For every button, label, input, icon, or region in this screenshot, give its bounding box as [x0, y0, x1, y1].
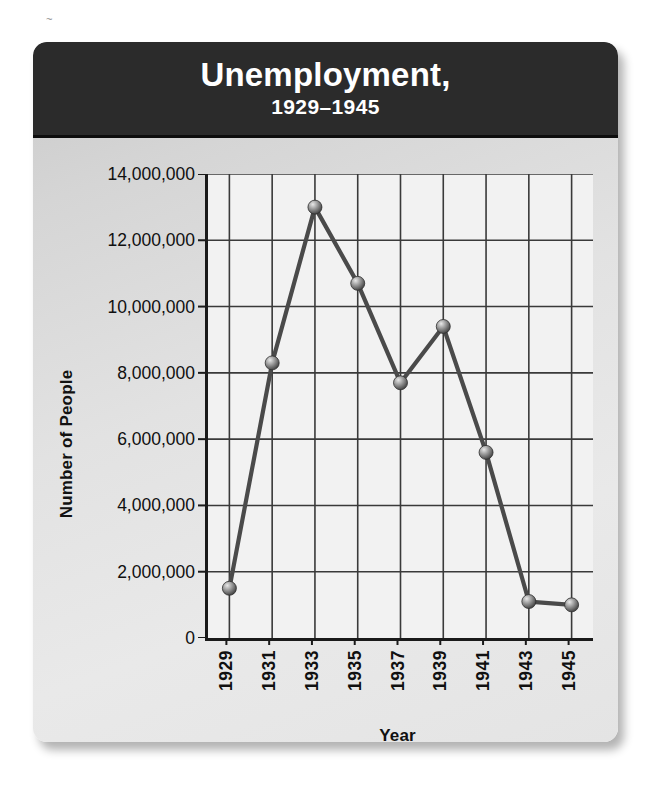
x-axis-tick-label: 1941	[473, 650, 494, 691]
x-axis-tick-labels: 192919311933193519371939194119431945	[205, 646, 590, 724]
data-point-marker	[522, 595, 536, 609]
data-point-marker	[565, 598, 579, 612]
plot-inner	[208, 174, 593, 638]
x-axis-ticks	[205, 638, 590, 646]
chart-region: Number of People 02,000,0004,000,0006,00…	[33, 138, 618, 742]
y-axis-tick-label: 8,000,000	[117, 362, 195, 383]
y-axis-tick-label: 0	[185, 628, 195, 649]
data-point-marker	[479, 445, 493, 459]
y-axis-tick-label: 4,000,000	[117, 495, 195, 516]
y-axis-tick-label: 14,000,000	[107, 164, 195, 185]
x-axis-tick-label: 1939	[430, 650, 451, 691]
data-point-marker	[308, 200, 322, 214]
x-axis-tick-label: 1933	[301, 650, 322, 691]
data-point-marker	[394, 376, 408, 390]
x-axis-tick-label: 1943	[515, 650, 536, 691]
data-point-marker	[222, 581, 236, 595]
y-axis-tick-label: 6,000,000	[117, 429, 195, 450]
data-point-marker	[351, 276, 365, 290]
y-axis-tick-labels: 02,000,0004,000,0006,000,0008,000,00010,…	[63, 138, 195, 742]
x-axis-tick-label: 1945	[558, 650, 579, 691]
x-axis-tick-label: 1931	[259, 650, 280, 691]
scan-artifact-speck: ~	[46, 17, 60, 22]
data-point-marker	[436, 319, 450, 333]
x-axis-tick-label: 1937	[387, 650, 408, 691]
line-chart-svg	[208, 174, 593, 638]
x-axis-title: Year	[205, 726, 590, 742]
y-axis-tick-label: 10,000,000	[107, 296, 195, 317]
y-axis-tick-label: 12,000,000	[107, 230, 195, 251]
plot-area	[205, 174, 593, 641]
y-axis-ticks	[197, 174, 205, 638]
chart-header: Unemployment, 1929–1945	[33, 42, 618, 138]
x-axis-tick-label: 1935	[344, 650, 365, 691]
chart-title: Unemployment,	[200, 58, 450, 92]
chart-subtitle: 1929–1945	[271, 95, 380, 119]
data-point-marker	[265, 356, 279, 370]
y-axis-tick-label: 2,000,000	[117, 561, 195, 582]
x-axis-tick-label: 1929	[216, 650, 237, 691]
chart-card: Unemployment, 1929–1945 Number of People…	[33, 42, 618, 742]
